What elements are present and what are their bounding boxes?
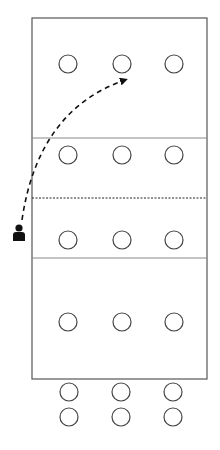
player-circle: [165, 55, 183, 73]
person-icon: [13, 224, 25, 241]
movement-arrow: [22, 80, 125, 220]
player-circle: [165, 231, 183, 249]
court-diagram: [0, 0, 220, 450]
player-circle: [59, 313, 77, 331]
player-circle: [165, 146, 183, 164]
player-circle: [165, 313, 183, 331]
player-circle: [59, 146, 77, 164]
bench-players: [60, 383, 182, 426]
court-players: [59, 55, 183, 331]
court-lines: [32, 138, 207, 258]
player-circle: [59, 231, 77, 249]
player-circle: [113, 313, 131, 331]
bench-player-circle: [164, 383, 182, 401]
bench-player-circle: [60, 408, 78, 426]
player-circle: [113, 231, 131, 249]
bench-player-circle: [164, 408, 182, 426]
bench-player-circle: [60, 383, 78, 401]
player-circle: [59, 55, 77, 73]
player-circle: [113, 55, 131, 73]
player-circle: [113, 146, 131, 164]
bench-player-circle: [112, 383, 130, 401]
bench-player-circle: [112, 408, 130, 426]
